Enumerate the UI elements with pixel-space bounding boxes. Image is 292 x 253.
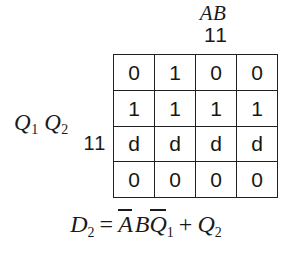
kmap-cell: 0 [196,162,237,197]
kmap-row: d d d d [114,127,277,163]
row-variable-1-letter: Q [14,110,31,135]
kmap-cell: 1 [155,55,196,90]
term1-var1-overbar: A [118,208,133,239]
column-variable-label: AB [186,2,240,24]
row-variable-1-subscript: 1 [31,122,39,137]
kmap-cell: 0 [196,55,237,90]
term1-var1: A [118,211,133,237]
expression-output: D [70,211,87,237]
kmap-cell: d [237,127,277,162]
kmap-cell: d [155,127,196,162]
row-variable-2-subscript: 2 [61,122,69,137]
kmap-cell: 1 [196,91,237,126]
kmap-cell: 0 [114,162,155,197]
kmap-cell: d [114,127,155,162]
term1-var3-overbar: Q [150,208,167,239]
kmap-cell: 0 [155,162,196,197]
term1-var2: B [135,211,150,237]
kmap-cell: 1 [237,91,277,126]
term1-var3: Q [150,211,167,237]
kmap-cell: 0 [237,55,277,90]
kmap-cell: d [196,127,237,162]
karnaugh-map-figure: AB 11 Q1Q2 11 0 1 0 0 1 1 1 1 d d d d 0 … [0,0,292,253]
kmap-row: 0 1 0 0 [114,55,277,91]
kmap-cell: 0 [114,55,155,90]
column-bit-pattern-label: 11 [192,23,240,47]
row-bit-pattern-label: 11 [82,132,108,155]
row-variable-label: Q1Q2 [14,110,68,143]
kmap-grid: 0 1 0 0 1 1 1 1 d d d d 0 0 0 0 [113,54,278,198]
expression-equals: = [95,211,119,237]
kmap-row: 0 0 0 0 [114,162,277,197]
term2-subscript: 2 [215,225,222,240]
kmap-row: 1 1 1 1 [114,91,277,127]
expression-operator: + [174,211,198,237]
kmap-cell: 1 [114,91,155,126]
term1-var3-subscript: 1 [167,225,174,240]
boolean-expression: D2=ABQ1+Q2 [0,208,292,248]
row-variable-2-letter: Q [44,110,61,135]
expression-output-subscript: 2 [88,225,95,240]
term2-var: Q [197,211,214,237]
kmap-cell: 1 [155,91,196,126]
kmap-cell: 0 [237,162,277,197]
